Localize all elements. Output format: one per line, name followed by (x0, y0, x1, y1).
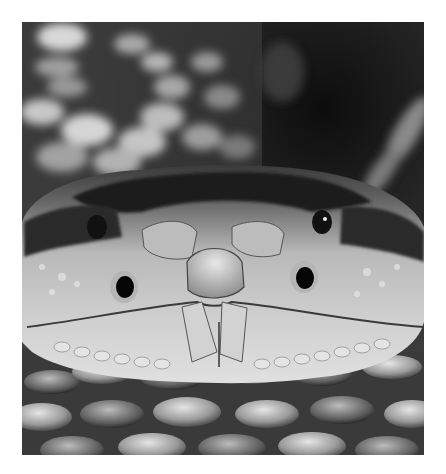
snake-photo (22, 22, 424, 455)
